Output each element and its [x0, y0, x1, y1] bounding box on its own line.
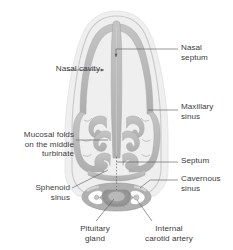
label-pituitary-gland: Pituitary gland: [66, 224, 124, 243]
internal-carotid-artery-lumen-left: [94, 195, 98, 199]
label-maxillary-sinus: Maxillary sinus: [181, 102, 233, 121]
label-mucosal-folds-middle-turbinate: Mucosal folds on the middle turbinate: [2, 130, 74, 159]
label-septum: Septum: [181, 156, 231, 166]
internal-carotid-artery-lumen: [134, 195, 139, 200]
label-nasal-septum: Nasal septum: [181, 43, 231, 62]
label-sphenoid-sinus: Sphenoid sinus: [8, 183, 70, 202]
label-cavernous-sinus: Cavernous sinus: [181, 174, 233, 193]
pituitary-gland-body: [108, 191, 125, 201]
label-nasal-cavity: Nasal cavity: [8, 64, 100, 74]
nasal-septum-structure: [111, 21, 122, 158]
nasal-anatomy-illustration: [0, 0, 233, 250]
label-internal-carotid-artery: Internal carotid artery: [133, 224, 205, 243]
